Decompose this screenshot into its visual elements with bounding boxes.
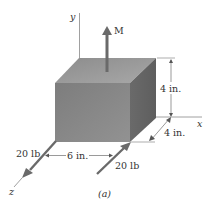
force-arrow-right: 20 lb (97, 142, 139, 174)
force-left-label: 20 lb (16, 148, 40, 159)
force-right-label: 20 lb (115, 160, 139, 171)
x-axis-label: x (197, 118, 203, 129)
height-dimension-label: 4 in. (160, 83, 181, 94)
y-axis: y (69, 11, 80, 58)
y-axis-label: y (69, 11, 76, 22)
block-front-face (55, 83, 130, 142)
force-arrow-left: 20 lb (16, 141, 56, 178)
height-dimension: 4 in. (157, 58, 184, 117)
spacing-dimension-label: 6 in. (67, 150, 88, 161)
spacing-dimension: 6 in. (45, 150, 113, 161)
moment-label: M (114, 25, 124, 36)
z-axis: z (8, 178, 22, 197)
couple-moment-diagram: y M 4 in. x 4 in. 20 lb (0, 0, 208, 207)
z-axis-label: z (8, 186, 15, 197)
depth-dimension-label: 4 in. (164, 127, 185, 138)
figure-caption: (a) (98, 188, 111, 199)
